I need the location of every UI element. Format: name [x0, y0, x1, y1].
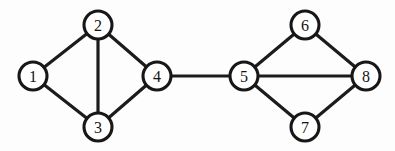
graph-diagram: 12345678: [0, 0, 395, 151]
edge-layer: [33, 25, 366, 127]
graph-node-label-7: 7: [301, 119, 309, 136]
graph-node-label-5: 5: [240, 68, 248, 85]
graph-node-label-2: 2: [94, 17, 102, 34]
graph-node-5[interactable]: 5: [230, 62, 258, 90]
graph-canvas: 12345678: [0, 0, 395, 151]
graph-node-7[interactable]: 7: [291, 113, 319, 141]
graph-node-label-3: 3: [94, 119, 102, 136]
graph-node-label-1: 1: [29, 68, 37, 85]
graph-node-2[interactable]: 2: [84, 11, 112, 39]
graph-node-1[interactable]: 1: [19, 62, 47, 90]
graph-node-label-6: 6: [301, 17, 309, 34]
graph-node-4[interactable]: 4: [143, 62, 171, 90]
graph-node-3[interactable]: 3: [84, 113, 112, 141]
graph-node-6[interactable]: 6: [291, 11, 319, 39]
graph-node-8[interactable]: 8: [352, 62, 380, 90]
graph-node-label-4: 4: [153, 68, 161, 85]
graph-node-label-8: 8: [362, 68, 370, 85]
